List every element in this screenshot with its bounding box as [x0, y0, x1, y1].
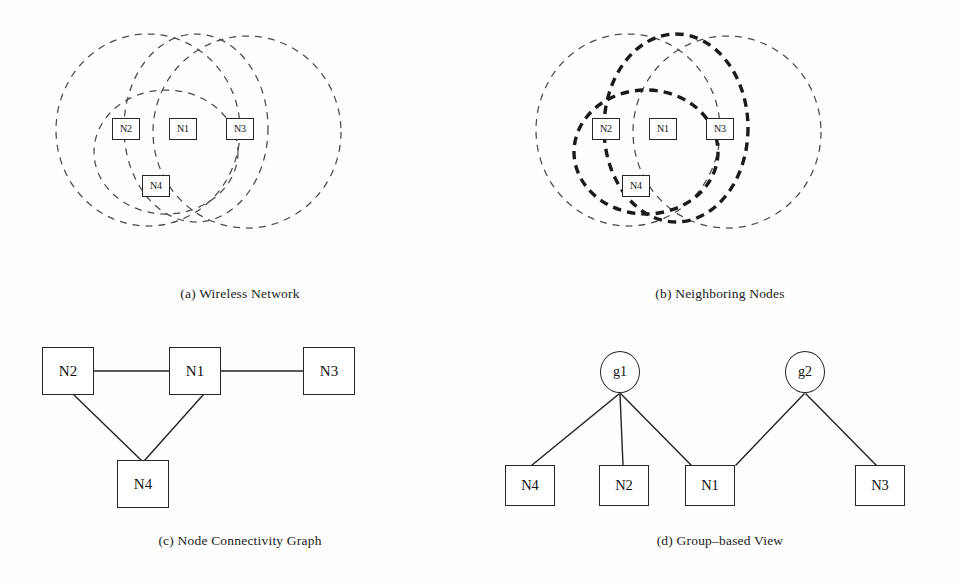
node-box-n4: N4	[142, 175, 170, 197]
panel-caption-c: (c) Node Connectivity Graph	[0, 533, 480, 549]
panel-neighboring-nodes: N2 N1 N3 N4 (b) Neighboring Nodes	[480, 0, 960, 310]
node-label: N2	[120, 124, 132, 134]
figure-root: N2 N1 N3 N4 (a) Wireless Network N2 N1 N…	[0, 0, 960, 584]
node-box-n1: N1	[169, 347, 221, 395]
node-label: N3	[871, 478, 889, 493]
node-label: N1	[177, 124, 189, 134]
node-box-n3: N3	[303, 347, 355, 395]
node-box-n2: N2	[592, 118, 620, 140]
edge-g1-n4	[532, 394, 619, 465]
panel-caption-d: (d) Group–based View	[480, 533, 960, 549]
node-box-n3: N3	[855, 465, 905, 506]
node-box-n4: N4	[622, 175, 650, 197]
node-label: N4	[150, 181, 162, 191]
panel-node-connectivity-graph: N2 N1 N3 N4 (c) Node Connectivity Graph	[0, 310, 480, 584]
node-label: N2	[59, 364, 77, 379]
node-box-n1: N1	[649, 118, 677, 140]
node-label: N1	[186, 364, 204, 379]
node-box-n1: N1	[685, 465, 735, 506]
node-box-n4: N4	[505, 465, 555, 506]
node-label: N1	[657, 124, 669, 134]
edge-g2-n1	[736, 394, 804, 465]
panel-a-canvas	[0, 0, 480, 310]
node-box-n3: N3	[706, 118, 734, 140]
group-label: g1	[613, 364, 627, 380]
node-box-n2: N2	[599, 465, 649, 506]
node-label: N4	[521, 478, 539, 493]
panel-caption-b: (b) Neighboring Nodes	[480, 286, 960, 302]
group-node-g1: g1	[600, 351, 640, 393]
node-box-n1: N1	[169, 118, 197, 140]
edge-g1-n2	[620, 394, 623, 465]
panel-group-based-view: g1 g2 N4 N2 N1 N3 (d) Group–based View	[480, 310, 960, 584]
node-box-n3: N3	[226, 118, 254, 140]
panel-wireless-network: N2 N1 N3 N4 (a) Wireless Network	[0, 0, 480, 310]
node-box-n4: N4	[117, 460, 169, 508]
node-label: N2	[615, 478, 633, 493]
edge-g2-n3	[806, 394, 876, 465]
panel-caption-a: (a) Wireless Network	[0, 286, 480, 302]
node-label: N4	[630, 181, 642, 191]
node-label: N3	[320, 364, 338, 379]
node-box-n2: N2	[42, 347, 94, 395]
node-label: N3	[714, 124, 726, 134]
node-box-n2: N2	[112, 118, 140, 140]
group-label: g2	[798, 364, 812, 380]
edge-g1-n1	[621, 394, 691, 465]
node-label: N4	[134, 477, 152, 492]
range-circle-n2	[536, 34, 720, 226]
edge-n1-n4	[145, 395, 203, 460]
panel-b-canvas	[480, 0, 960, 310]
edge-n2-n4	[74, 395, 141, 460]
node-label: N3	[234, 124, 246, 134]
node-label: N2	[600, 124, 612, 134]
node-label: N1	[701, 478, 719, 493]
group-node-g2: g2	[785, 351, 825, 393]
